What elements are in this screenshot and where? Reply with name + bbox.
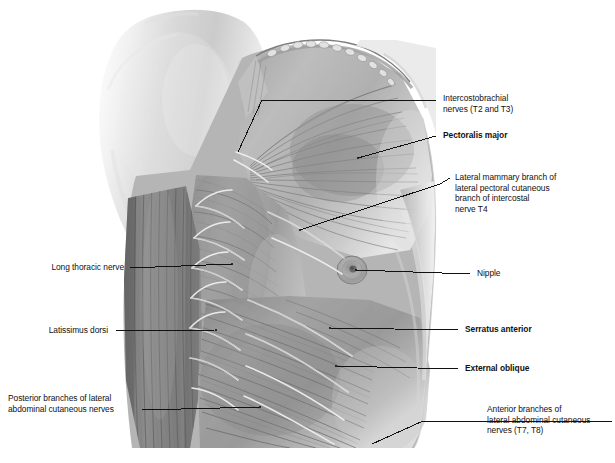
label-serratus-anterior: Serratus anterior (465, 324, 532, 335)
label-lateral-mammary-branch: Lateral mammary branch of lateral pector… (455, 172, 556, 214)
label-intercostobrachial-nerves: Intercostobrachial nerves (T2 and T3) (443, 93, 513, 114)
anatomy-figure-page: Intercostobrachial nerves (T2 and T3) Pe… (0, 0, 615, 463)
label-posterior-branches: Posterior branches of lateral abdominal … (8, 393, 114, 414)
label-external-oblique: External oblique (465, 363, 529, 374)
label-latissimus-dorsi: Latissimus dorsi (8, 325, 108, 336)
label-nipple: Nipple (477, 268, 500, 279)
label-pectoralis-major: Pectoralis major (443, 130, 507, 141)
external-oblique-muscle (190, 290, 440, 460)
label-anterior-branches: Anterior branches of lateral abdominal c… (487, 404, 590, 436)
label-long-thoracic-nerve: Long thoracic nerve (8, 262, 124, 273)
